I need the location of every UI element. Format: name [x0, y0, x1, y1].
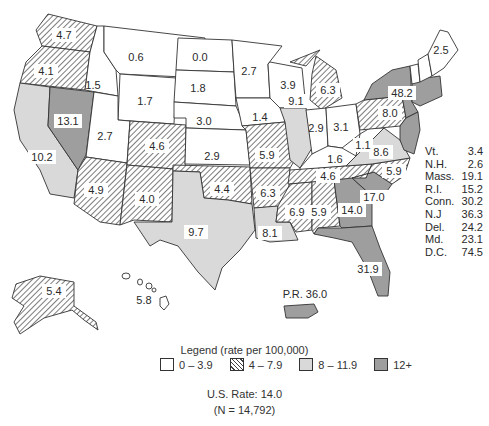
label-mt: 0.6 [128, 51, 143, 63]
svg-text:5.9: 5.9 [311, 206, 326, 218]
label-la: 8.1 [258, 226, 282, 240]
legend-item-high: 8 – 11.9 [299, 358, 357, 371]
legend: 0 – 3.9 4 – 7.9 8 – 11.9 12+ [160, 358, 429, 371]
svg-text:4.4: 4.4 [214, 183, 229, 195]
svg-text:8.6: 8.6 [373, 146, 388, 158]
label-nv: 13.1 [54, 114, 82, 128]
label-ne: 3.0 [196, 115, 211, 127]
swatch-hatched-icon [230, 358, 244, 371]
legend-item-mid: 4 – 7.9 [230, 358, 283, 371]
label-ny: 48.2 [388, 86, 416, 100]
label-il: 9.1 [284, 94, 308, 108]
label-in: 2.9 [308, 122, 323, 134]
svg-text:8.0: 8.0 [382, 107, 397, 119]
label-fl: 31.9 [354, 262, 382, 276]
label-pa: 8.0 [378, 106, 402, 120]
label-ar: 6.3 [256, 186, 280, 200]
label-wa: 4.7 [52, 28, 76, 42]
svg-text:1.1: 1.1 [355, 139, 370, 151]
label-tx: 9.7 [184, 225, 208, 239]
svg-text:31.9: 31.9 [357, 263, 378, 275]
swatch-dark-gray-icon [374, 358, 388, 371]
label-mn: 2.7 [241, 65, 256, 77]
territory-puerto-rico [284, 304, 318, 318]
label-id: 1.5 [85, 79, 100, 91]
label-ia: 1.4 [252, 111, 267, 123]
table-row: Md.23.1 [425, 233, 483, 246]
label-sd: 1.8 [190, 82, 205, 94]
table-row: N.H.2.6 [425, 158, 483, 171]
table-row: Del.24.2 [425, 221, 483, 234]
label-pr: P.R. 36.0 [283, 288, 327, 300]
swatch-white-icon [160, 358, 174, 371]
sample-size: (N = 14,792) [0, 404, 489, 416]
label-oh: 3.1 [333, 121, 348, 133]
table-row: R.I.15.2 [425, 183, 483, 196]
table-row: D.C.74.5 [425, 246, 483, 259]
svg-text:13.1: 13.1 [57, 115, 78, 127]
svg-text:8.1: 8.1 [262, 227, 277, 239]
label-al: 5.9 [307, 205, 331, 219]
svg-text:6.3: 6.3 [260, 187, 275, 199]
svg-text:6.3: 6.3 [320, 84, 335, 96]
legend-item-low: 0 – 3.9 [160, 358, 213, 371]
svg-text:9.1: 9.1 [288, 95, 303, 107]
label-mo: 5.9 [255, 148, 279, 162]
label-co: 4.6 [145, 139, 169, 153]
label-ms: 6.9 [285, 205, 309, 219]
label-sc: 17.0 [360, 190, 388, 204]
label-nm: 4.0 [135, 192, 159, 206]
table-row: Conn.30.2 [425, 195, 483, 208]
small-states-table: Vt.3.4 N.H.2.6 Mass.19.1 R.I.15.2 Conn.3… [425, 145, 483, 258]
table-row: Mass.19.1 [425, 170, 483, 183]
svg-text:4.6: 4.6 [149, 140, 164, 152]
label-az: 4.9 [84, 183, 108, 197]
svg-text:4.6: 4.6 [320, 170, 335, 182]
label-ks: 2.9 [204, 150, 219, 162]
svg-text:5.4: 5.4 [46, 285, 61, 297]
label-nc: 5.9 [382, 164, 406, 178]
svg-text:4.7: 4.7 [56, 29, 71, 41]
svg-text:9.7: 9.7 [188, 226, 203, 238]
label-or: 4.1 [34, 64, 58, 78]
svg-text:4.0: 4.0 [139, 193, 154, 205]
label-ca: 10.2 [28, 150, 56, 164]
svg-text:48.2: 48.2 [391, 87, 412, 99]
label-nd: 0.0 [192, 51, 207, 63]
svg-text:17.0: 17.0 [363, 191, 384, 203]
label-ak: 5.4 [42, 284, 66, 298]
svg-text:14.0: 14.0 [341, 204, 362, 216]
label-me: 2.5 [433, 44, 448, 56]
svg-text:4.9: 4.9 [88, 184, 103, 196]
svg-text:6.9: 6.9 [289, 206, 304, 218]
label-wi: 3.9 [280, 79, 295, 91]
label-wv: 1.1 [353, 138, 373, 152]
label-hi: 5.8 [136, 294, 151, 306]
label-mi: 6.3 [316, 83, 340, 97]
label-ut: 2.7 [97, 130, 112, 142]
us-rate: U.S. Rate: 14.0 [0, 388, 489, 400]
label-wy: 1.7 [137, 95, 152, 107]
svg-text:5.9: 5.9 [386, 165, 401, 177]
state-florida [314, 226, 390, 296]
legend-title: Legend (rate per 100,000) [0, 344, 489, 356]
label-ky: 1.6 [327, 153, 342, 165]
label-ok: 4.4 [210, 182, 234, 196]
table-row: Vt.3.4 [425, 145, 483, 158]
svg-text:10.2: 10.2 [31, 151, 52, 163]
svg-text:4.1: 4.1 [38, 65, 53, 77]
swatch-light-gray-icon [299, 358, 313, 371]
legend-item-very-high: 12+ [374, 358, 412, 371]
label-ga: 14.0 [338, 203, 366, 217]
table-row: N.J36.3 [425, 208, 483, 221]
svg-text:5.9: 5.9 [259, 149, 274, 161]
label-tn: 4.6 [316, 169, 340, 183]
